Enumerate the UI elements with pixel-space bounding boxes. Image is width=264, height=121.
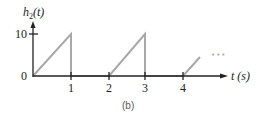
- x-axis-label: t (s): [231, 69, 250, 83]
- x-tick-label-3: 3: [142, 81, 148, 95]
- y-axis-label: h2(t): [23, 5, 44, 21]
- x-axis-arrow-icon: [220, 74, 228, 79]
- y-axis-arrow-icon: [31, 21, 36, 28]
- signal-line: [33, 34, 200, 76]
- figure-caption: (b): [122, 100, 134, 111]
- continuation-dots: •••: [211, 51, 226, 59]
- x-tick-label-4: 4: [180, 81, 186, 95]
- x-tick-label-2: 2: [106, 81, 112, 95]
- x-tick-label-1: 1: [68, 81, 74, 95]
- y-tick-label-10: 10: [15, 27, 27, 41]
- y-tick-label-0: 0: [21, 69, 27, 83]
- chart: 10 0 1 2 3 4 h2(t) t (s) ••• (b): [0, 0, 264, 121]
